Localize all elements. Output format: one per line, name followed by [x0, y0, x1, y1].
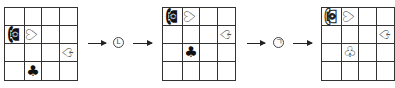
- cell-r4c4: [60, 62, 77, 80]
- spade-outline-icon: ♤: [378, 28, 393, 41]
- cell-r2c2: ♡: [25, 26, 42, 44]
- cell-r4c1: [322, 62, 342, 80]
- cell-r3c2: ♣: [183, 44, 200, 62]
- operation-2-icon: ㄱ: [273, 37, 284, 48]
- arrow-icon: [133, 43, 152, 44]
- spade-outline-icon: ♤: [61, 46, 76, 59]
- cell-r2c2: [342, 26, 359, 44]
- cell-r4c1: [5, 62, 25, 80]
- arrow-icon: [247, 43, 265, 44]
- cell-r2c1: ☎: [5, 26, 25, 44]
- club-filled-icon: ♣: [184, 45, 197, 60]
- cell-r3c2: ♧: [342, 44, 359, 62]
- telephone-outline-icon: ☎: [324, 7, 339, 26]
- cell-r4c3: [42, 62, 59, 80]
- cell-r3c3: [359, 44, 376, 62]
- cell-r4c4: [218, 62, 235, 80]
- cell-r1c4: [377, 8, 394, 26]
- spade-outline-icon: ♤: [219, 28, 234, 41]
- cell-r2c1: [322, 26, 342, 44]
- cell-r1c3: [42, 8, 59, 26]
- cell-r4c3: [200, 62, 217, 80]
- cell-r3c1: [322, 44, 342, 62]
- telephone-icon: ☎: [165, 7, 180, 26]
- cell-r4c2: [183, 62, 200, 80]
- cell-r1c4: [218, 8, 235, 26]
- cell-r4c4: [377, 62, 394, 80]
- cell-r3c1: [163, 44, 183, 62]
- cell-r3c3: [200, 44, 217, 62]
- cell-r4c2: [342, 62, 359, 80]
- cell-r2c4: ♤: [377, 26, 394, 44]
- cell-r1c4: [60, 8, 77, 26]
- cell-r3c4: [377, 44, 394, 62]
- cell-r3c3: [42, 44, 59, 62]
- cell-r2c1: [163, 26, 183, 44]
- grid-panel-2: ☎ ♡ ♤ ♣: [162, 7, 236, 81]
- cell-r1c1: ☎: [322, 8, 342, 26]
- telephone-icon: ☎: [7, 25, 22, 44]
- cell-r1c3: [200, 8, 217, 26]
- cell-r1c1: [5, 8, 25, 26]
- cell-r2c3: [359, 26, 376, 44]
- heart-outline-icon: ♡: [342, 10, 357, 23]
- cell-r3c4: ♤: [60, 44, 77, 62]
- cell-r2c3: [42, 26, 59, 44]
- cell-r1c1: ☎: [163, 8, 183, 26]
- cell-r1c3: [359, 8, 376, 26]
- grid-panel-3: ☎ ♡ ♤ ♧: [321, 7, 395, 81]
- cell-r2c4: ♤: [218, 26, 235, 44]
- cell-r4c2: ♣: [25, 62, 42, 80]
- arrow-icon: [293, 43, 312, 44]
- cell-r3c1: [5, 44, 25, 62]
- cell-r3c4: [218, 44, 235, 62]
- cell-r2c4: [60, 26, 77, 44]
- cell-r1c2: ♡: [342, 8, 359, 26]
- cell-r4c1: [163, 62, 183, 80]
- cell-r3c2: [25, 44, 42, 62]
- cell-r1c2: [25, 8, 42, 26]
- heart-outline-icon: ♡: [183, 10, 198, 23]
- cell-r1c2: ♡: [183, 8, 200, 26]
- grid-panel-1: ☎ ♡ ♤ ♣: [4, 7, 78, 81]
- cell-r4c3: [359, 62, 376, 80]
- operation-1-icon: L: [113, 37, 124, 48]
- cell-r2c3: [200, 26, 217, 44]
- club-filled-icon: ♣: [26, 64, 39, 79]
- heart-outline-icon: ♡: [25, 28, 40, 41]
- cell-r2c2: [183, 26, 200, 44]
- arrow-icon: [88, 43, 106, 44]
- club-outline-icon: ♧: [343, 45, 356, 60]
